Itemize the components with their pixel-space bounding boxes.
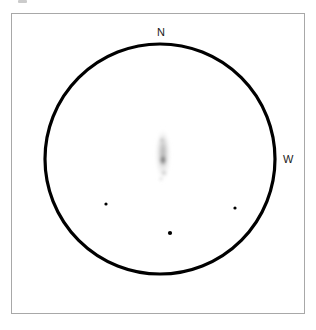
galaxy-object xyxy=(154,127,172,183)
galaxy-knot-upper xyxy=(158,136,165,143)
galaxy-core xyxy=(158,154,167,167)
star-right xyxy=(233,206,236,209)
galaxy-knot-lower xyxy=(160,169,168,177)
orientation-label-west: W xyxy=(283,154,294,165)
galaxy-knot-tail xyxy=(158,176,164,182)
star-bottom xyxy=(168,231,172,235)
orientation-label-north: N xyxy=(157,27,165,38)
observation-sketch: N W xyxy=(0,0,316,330)
field-of-view-drawing xyxy=(0,0,316,330)
star-left xyxy=(104,202,107,205)
